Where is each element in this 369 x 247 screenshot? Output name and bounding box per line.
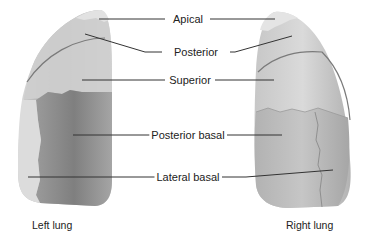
left-upper-segment xyxy=(22,10,112,100)
label-lateral-basal: Lateral basal xyxy=(155,171,222,183)
lung-segments-diagram xyxy=(0,0,369,247)
label-apical: Apical xyxy=(171,13,205,25)
label-posterior-basal: Posterior basal xyxy=(149,129,226,141)
right-lung xyxy=(255,12,351,208)
caption-right-lung: Right lung xyxy=(286,219,333,231)
right-basal-segment xyxy=(255,108,350,208)
label-superior: Superior xyxy=(167,74,213,86)
caption-left-lung: Left lung xyxy=(32,219,72,231)
left-basal-segment xyxy=(36,90,112,206)
label-posterior: Posterior xyxy=(172,46,220,58)
